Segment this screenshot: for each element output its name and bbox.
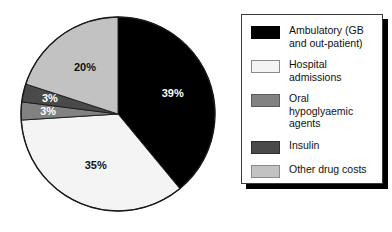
legend-label-oral-hypoglyaemic-agents: Oral hypoglyaemic agents (289, 92, 374, 130)
legend-item-insulin[interactable]: Insulin (251, 139, 374, 154)
pie-label-oral-hypoglyaemic-agents: 3% (40, 105, 56, 117)
pie-chart-figure: 39% 35% 3% 3% 20% Ambulatory (GB and out… (0, 0, 392, 232)
legend-swatch-ambulatory (251, 26, 280, 39)
legend-swatch-insulin (251, 141, 280, 154)
legend-swatch-hospital-admissions (251, 60, 280, 73)
legend-item-other-drug-costs[interactable]: Other drug costs (251, 163, 374, 178)
legend-item-oral-hypoglyaemic-agents[interactable]: Oral hypoglyaemic agents (251, 92, 374, 130)
legend-item-hospital-admissions[interactable]: Hospital admissions (251, 58, 374, 83)
legend-label-ambulatory: Ambulatory (GB and out-patient) (289, 24, 364, 49)
legend: Ambulatory (GB and out-patient) Hospital… (241, 14, 383, 184)
legend-item-ambulatory[interactable]: Ambulatory (GB and out-patient) (251, 24, 374, 49)
legend-label-hospital-admissions: Hospital admissions (289, 58, 374, 83)
legend-swatch-oral-hypoglyaemic-agents (251, 94, 280, 107)
legend-swatch-other-drug-costs (251, 165, 280, 178)
legend-label-other-drug-costs: Other drug costs (289, 163, 367, 176)
pie-label-ambulatory: 39% (162, 87, 184, 99)
pie-label-hospital-admissions: 35% (85, 159, 107, 171)
pie-label-insulin: 3% (42, 92, 58, 104)
pie-svg: 39% 35% 3% 3% 20% (18, 12, 220, 216)
legend-label-insulin: Insulin (289, 139, 319, 152)
pie-chart-area: 39% 35% 3% 3% 20% (18, 12, 220, 216)
pie-label-other-drug-costs: 20% (74, 61, 96, 73)
